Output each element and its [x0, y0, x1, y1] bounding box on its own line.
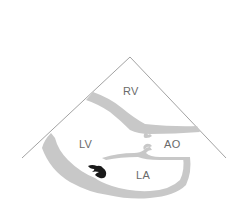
label-left-ventricle: LV	[79, 139, 92, 150]
echo-diagram	[0, 0, 246, 213]
label-aorta: AO	[164, 139, 181, 150]
label-left-atrium: LA	[136, 170, 150, 181]
label-right-ventricle: RV	[123, 86, 139, 97]
